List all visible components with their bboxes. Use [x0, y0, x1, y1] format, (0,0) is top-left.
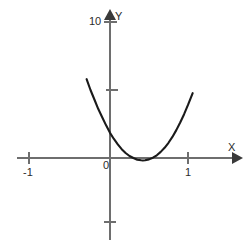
x-axis-label: X [228, 142, 235, 153]
x-tick-label-one: 1 [185, 167, 191, 178]
parabola-curve [87, 79, 193, 160]
parabola-plot: -1 0 1 10 X Y [0, 0, 252, 245]
y-axis-label: Y [115, 11, 122, 22]
x-tick-label-zero: 0 [103, 160, 109, 171]
x-tick-label-neg1: -1 [23, 167, 33, 178]
y-tick-label-ten: 10 [89, 16, 101, 27]
plot-canvas [0, 0, 252, 245]
x-axis-arrow-icon [232, 152, 243, 164]
